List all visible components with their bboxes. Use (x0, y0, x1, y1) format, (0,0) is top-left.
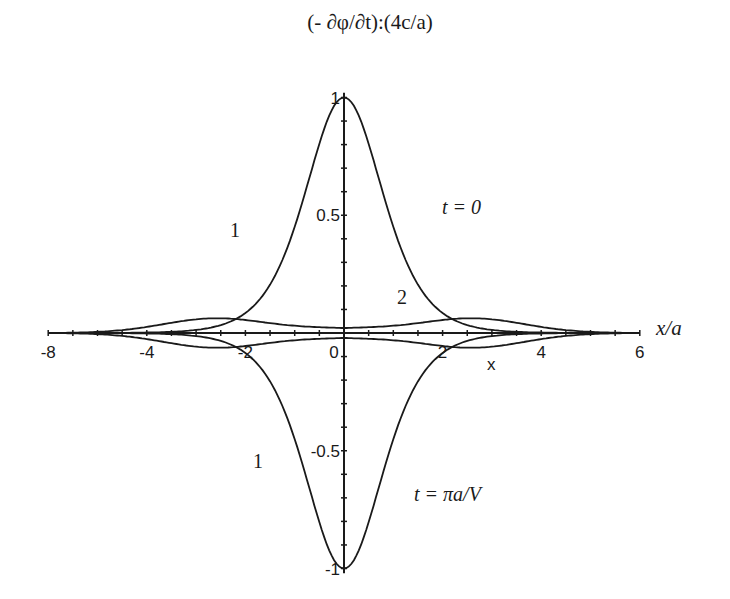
curve-label-1-top: 1 (230, 219, 240, 242)
annotation-t0: t = 0 (442, 196, 481, 219)
x-tick-label: -4 (139, 343, 154, 362)
x-tick-label: 4 (536, 343, 545, 362)
y-tick-label: -1 (325, 560, 340, 579)
x-tick-label: 0 (329, 343, 338, 362)
x-axis-label: x/a (656, 316, 682, 341)
y-tick-label: 0.5 (316, 206, 340, 225)
y-tick-label: -0.5 (311, 442, 340, 461)
annotation-tpi: t = πa/V (414, 483, 481, 506)
x-tick-label: -8 (41, 343, 56, 362)
curve-label-2: 2 (397, 286, 407, 309)
curve-label-1-bottom: 1 (253, 450, 263, 473)
marker-x-label: x (487, 355, 496, 375)
x-tick-label: 6 (635, 343, 644, 362)
plot-area: -8-4-2024610.5-0.5-1 (0, 0, 730, 599)
